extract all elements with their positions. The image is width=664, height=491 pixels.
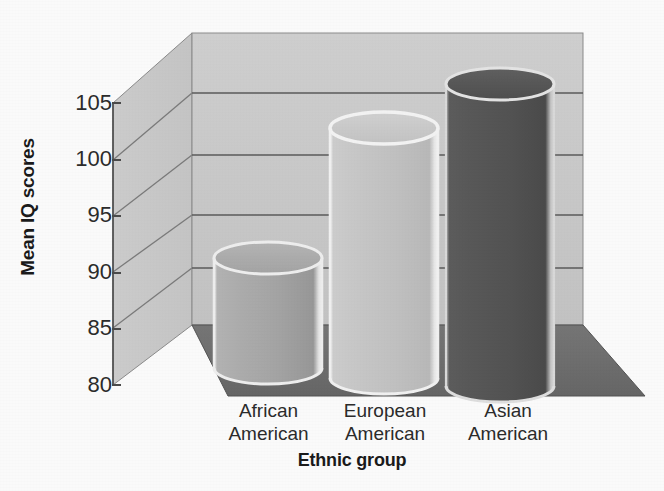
y-tick-mark-95 [112,215,121,217]
y-tick-mark-105 [112,102,121,104]
x-category-line-1: Asian [428,399,588,422]
x-category-line-2: American [428,422,588,445]
y-tick-label-80: 80 [52,374,112,396]
y-tick-mark-85 [112,328,121,330]
y-axis-title: Mean IQ scores [17,97,39,317]
y-tick-label-100: 100 [52,148,112,170]
x-category-label-asian-american: Asian American [428,399,588,445]
y-tick-label-105: 105 [52,92,112,114]
bar-african-american [214,242,322,384]
y-tick-mark-90 [112,272,121,274]
y-tick-label-90: 90 [52,261,112,283]
iq-bar-chart: 105 100 95 90 85 80 Mean IQ scores Afric… [0,0,664,491]
y-tick-mark-100 [112,159,121,161]
x-axis-title: Ethnic group [232,450,472,471]
y-tick-label-85: 85 [52,317,112,339]
left-side-wall [113,33,192,385]
y-tick-label-95: 95 [52,204,112,226]
bar-asian-american [446,68,554,402]
bar-european-american [330,112,438,394]
y-tick-mark-80 [112,384,121,386]
y-tick-label-group: 105 100 95 90 85 80 [46,0,112,491]
